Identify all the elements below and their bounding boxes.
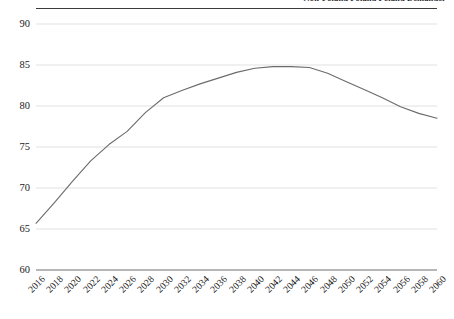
data-series-line bbox=[36, 67, 437, 224]
series-polyline bbox=[36, 67, 437, 224]
y-tick-label-70: 70 bbox=[2, 183, 30, 194]
line-chart-plot bbox=[0, 0, 454, 319]
y-tick-label-80: 80 bbox=[2, 101, 30, 112]
y-tick-label-60: 60 bbox=[2, 265, 30, 276]
y-tick-label-85: 85 bbox=[2, 60, 30, 71]
chart-figure: Non-Poland Poland Poland Demander 606570… bbox=[0, 0, 454, 319]
gridlines bbox=[36, 24, 437, 270]
y-tick-label-65: 65 bbox=[2, 224, 30, 235]
y-tick-label-90: 90 bbox=[2, 19, 30, 30]
y-tick-label-75: 75 bbox=[2, 142, 30, 153]
